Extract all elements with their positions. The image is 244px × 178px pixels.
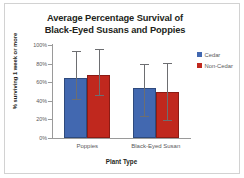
y-axis-tick-label: 20% — [36, 116, 47, 122]
chart-figure: Average Percentage Survival of Black-Eye… — [0, 0, 244, 178]
error-bar-cap-upper — [72, 51, 81, 52]
error-bar-cap-lower — [72, 99, 81, 100]
error-bar-cap-upper — [95, 49, 104, 50]
figure-frame: Average Percentage Survival of Black-Eye… — [4, 3, 240, 174]
y-axis-tick-label: 100% — [33, 42, 47, 48]
y-axis-tick-label: 80% — [36, 61, 47, 67]
y-axis-tick-label-wrap: 80% — [23, 61, 47, 67]
error-bar-line — [167, 64, 168, 122]
error-bar-line — [76, 52, 77, 99]
error-bar-cap-upper — [163, 63, 172, 64]
y-axis-tick-label-wrap: 100% — [23, 42, 47, 48]
y-axis-tick-label-wrap: 60% — [23, 79, 47, 85]
chart-title: Average Percentage Survival of Black-Eye… — [27, 13, 203, 36]
x-axis-category-label: Black-Eyed Susan — [116, 143, 196, 149]
plot-area — [53, 45, 190, 138]
legend-label: Cedar — [205, 52, 221, 58]
y-axis-tick-label-wrap: 40% — [23, 98, 47, 104]
x-axis-line — [52, 138, 191, 139]
error-bar-cap-upper — [140, 64, 149, 65]
error-bar-cap-lower — [140, 116, 149, 117]
y-axis-tick-label: 40% — [36, 98, 47, 104]
error-bar-line — [144, 65, 145, 116]
error-bar-line — [99, 50, 100, 97]
chart-legend: CedarNon-Cedar — [197, 51, 233, 73]
legend-swatch-icon — [197, 63, 202, 68]
x-axis-title: Plant Type — [53, 158, 190, 165]
error-bar-cap-lower — [163, 120, 172, 121]
y-axis-tick-label: 60% — [36, 79, 47, 85]
y-axis-tick-label: 0% — [39, 135, 47, 141]
legend-item: Non-Cedar — [197, 62, 233, 69]
legend-swatch-icon — [197, 52, 202, 57]
y-axis-title: % surviving 1 week or more — [12, 23, 18, 119]
chart-title-line-2: Black-Eyed Susans and Poppies — [27, 25, 203, 37]
chart-title-line-1: Average Percentage Survival of — [27, 13, 203, 25]
y-axis-tick-label-wrap: 0% — [23, 135, 47, 141]
error-bar-cap-lower — [95, 95, 104, 96]
y-axis-tick-label-wrap: 20% — [23, 116, 47, 122]
legend-label: Non-Cedar — [205, 63, 233, 69]
legend-item: Cedar — [197, 51, 233, 58]
